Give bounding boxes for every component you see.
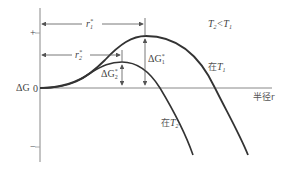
origin-label: 0 bbox=[33, 83, 38, 94]
r2-label: r*2 bbox=[75, 49, 82, 61]
x-axis-label: 半径r bbox=[253, 91, 275, 102]
r1-label: r*1 bbox=[86, 18, 93, 30]
condition-label: T2<T1 bbox=[208, 18, 232, 30]
plus-label: + bbox=[30, 27, 36, 38]
curve-t1 bbox=[40, 36, 248, 155]
dg1-label: ΔG*1 bbox=[148, 53, 165, 65]
delta-g-label: ΔG bbox=[16, 82, 30, 93]
curve-t1-label: 在T1 bbox=[208, 61, 226, 73]
nucleation-free-energy-diagram: + − ΔG 0 半径r T2<T1 r*1 r*2 ΔG*1 ΔG*2 在T1… bbox=[0, 0, 282, 172]
curve-t2-label: 在T2 bbox=[161, 117, 179, 129]
dg2-label: ΔG*2 bbox=[101, 68, 118, 80]
minus-label: − bbox=[30, 141, 36, 152]
